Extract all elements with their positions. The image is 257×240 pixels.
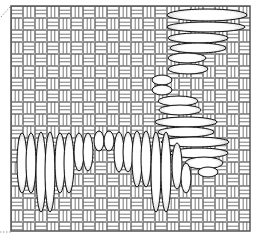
horizontal-ellipse [170, 43, 226, 53]
vertical-ellipse [104, 131, 114, 151]
horizontal-ellipse [167, 22, 245, 32]
vertical-ellipse [26, 133, 36, 193]
vertical-ellipse [141, 131, 151, 187]
horizontal-ellipse [168, 53, 206, 63]
vertical-ellipse [83, 133, 93, 171]
horizontal-ellipse [159, 105, 201, 115]
vertical-ellipse [64, 133, 74, 193]
corner-mark [1, 7, 10, 17]
horizontal-ellipse [167, 9, 247, 21]
vertical-ellipse [151, 132, 161, 212]
horizontal-ellipse [198, 167, 218, 177]
vertical-ellipse [172, 143, 182, 189]
corner-marks [0, 7, 11, 232]
horizontal-ellipse [168, 64, 208, 74]
vertical-ellipse [161, 132, 171, 212]
horizontal-ellipse [168, 33, 228, 43]
horizontal-ellipse [161, 137, 229, 147]
vertical-ellipse [123, 132, 133, 172]
horizontal-ellipse [158, 96, 198, 106]
horizontal-ellipse [152, 75, 172, 85]
horizontal-ellipse [155, 117, 217, 127]
vertical-ellipse [181, 163, 191, 193]
ellipse-packing-diagram [0, 0, 257, 240]
horizontal-ellipse [152, 85, 172, 95]
vertical-ellipse [45, 132, 55, 212]
vertical-ellipse [94, 131, 104, 151]
